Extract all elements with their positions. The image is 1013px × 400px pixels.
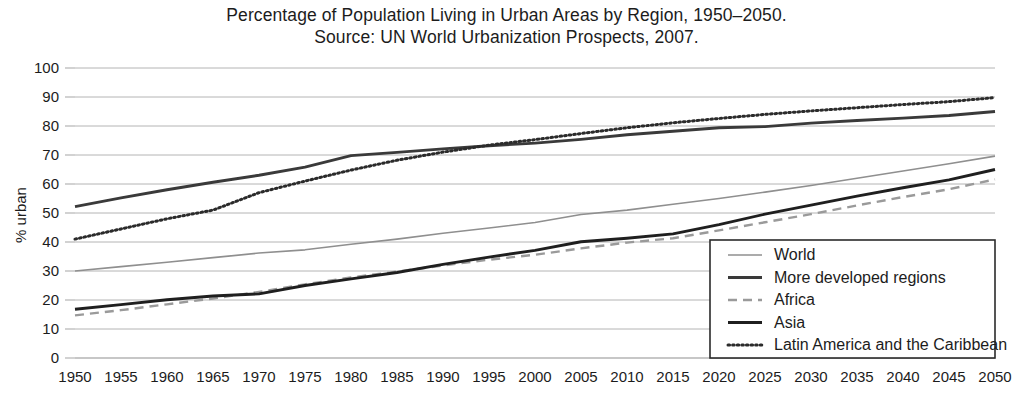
x-axis-tick-label: 2040	[886, 368, 919, 385]
chart-plot-area: 0102030405060708090100 19501955196019651…	[0, 0, 1013, 400]
x-axis-tick-label: 2000	[518, 368, 551, 385]
x-axis-tick-label: 1965	[196, 368, 229, 385]
chart-figure: Percentage of Population Living in Urban…	[0, 0, 1013, 400]
x-axis-tick-labels: 1950195519601965197019751980198519901995…	[58, 368, 1011, 385]
y-axis-tick-label: 90	[42, 88, 59, 105]
y-axis-tick-label: 0	[51, 349, 59, 366]
x-axis-tick-label: 2010	[610, 368, 643, 385]
y-axis-tick-label: 10	[42, 320, 59, 337]
y-axis-tick-label: 40	[42, 233, 59, 250]
series-line	[75, 98, 995, 240]
x-axis-tick-label: 2045	[932, 368, 965, 385]
x-axis-tick-label: 2050	[978, 368, 1011, 385]
y-axis-tick-labels: 0102030405060708090100	[34, 59, 59, 366]
y-axis-tick-label: 30	[42, 262, 59, 279]
x-axis-tick-label: 2020	[702, 368, 735, 385]
x-axis-tick-label: 2025	[748, 368, 781, 385]
x-axis-tick-label: 1950	[58, 368, 91, 385]
legend-item-label[interactable]: World	[774, 246, 816, 263]
y-axis-label: % urban	[12, 187, 29, 243]
legend-item-label[interactable]: Africa	[774, 291, 815, 308]
x-axis-tick-label: 2030	[794, 368, 827, 385]
y-axis-tick-label: 60	[42, 175, 59, 192]
x-axis-tick-label: 1955	[104, 368, 137, 385]
y-axis-tick-label: 20	[42, 291, 59, 308]
y-axis-label-group: % urban	[12, 187, 29, 243]
x-axis-tick-label: 2005	[564, 368, 597, 385]
chart-legend: WorldMore developed regionsAfricaAsiaLat…	[710, 240, 1007, 358]
x-axis-tick-label: 1960	[150, 368, 183, 385]
x-axis-tick-label: 1975	[288, 368, 321, 385]
y-axis-tick-label: 70	[42, 146, 59, 163]
x-axis-tick-label: 1995	[472, 368, 505, 385]
legend-item-label[interactable]: Latin America and the Caribbean	[774, 336, 1007, 353]
legend-item-label[interactable]: More developed regions	[774, 269, 946, 286]
y-axis-tick-label: 50	[42, 204, 59, 221]
x-axis-tick-label: 2035	[840, 368, 873, 385]
x-axis-tick-label: 1990	[426, 368, 459, 385]
x-axis-tick-label: 2015	[656, 368, 689, 385]
x-axis-tick-label: 1980	[334, 368, 367, 385]
x-axis-tick-label: 1985	[380, 368, 413, 385]
legend-item-label[interactable]: Asia	[774, 314, 805, 331]
x-axis-tick-label: 1970	[242, 368, 275, 385]
y-axis-tick-label: 100	[34, 59, 59, 76]
y-axis-tick-label: 80	[42, 117, 59, 134]
